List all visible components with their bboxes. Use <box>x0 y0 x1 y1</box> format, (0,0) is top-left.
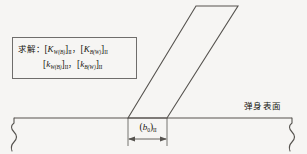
subscript-BW: B(W) <box>90 49 101 55</box>
subscript-WB: W(B) <box>50 64 61 70</box>
body-surface-label: 弹身表面 <box>244 99 281 111</box>
formula-line-2: [kW(B)]II，[kB(W)]II <box>18 57 133 72</box>
dimension-arrowhead-right <box>160 137 167 142</box>
technical-figure: 求解：[KW(B)]II，[KB(W)]II [kW(B)]II，[kB(W)]… <box>0 0 307 154</box>
subscript-BW: B(W) <box>84 64 95 70</box>
formula-line-1: 求解：[KW(B)]II，[KB(W)]II <box>18 42 133 57</box>
break-symbol-right <box>289 118 294 151</box>
roman-numeral-II: II <box>68 49 71 55</box>
formula-term-K-WB: [KW(B)]II <box>44 44 71 54</box>
chord-dimension-label: (b0)II <box>128 122 168 133</box>
roman-numeral-II: II <box>104 49 107 55</box>
break-symbol-left <box>11 118 16 151</box>
roman-numeral-II: II <box>153 127 156 133</box>
roman-numeral-II: II <box>99 64 102 70</box>
dimension-arrowhead-left <box>128 137 135 142</box>
formula-callout-box: 求解：[KW(B)]II，[KB(W)]II [kW(B)]II，[kB(W)]… <box>12 37 137 79</box>
formula-callout-content: 求解：[KW(B)]II，[KB(W)]II [kW(B)]II，[kB(W)]… <box>18 42 133 76</box>
formula-term-k-WB: [kW(B)]II <box>43 59 68 69</box>
subscript-WB: W(B) <box>54 49 65 55</box>
formula-separator-2: ， <box>68 60 77 69</box>
formula-lead-label: 求解： <box>18 44 44 54</box>
fin-planform <box>128 6 238 118</box>
formula-term-K-BW: [KB(W)]II <box>81 44 108 54</box>
formula-term-k-BW: [kB(W)]II <box>77 59 102 69</box>
formula-separator-1: ， <box>72 45 81 54</box>
